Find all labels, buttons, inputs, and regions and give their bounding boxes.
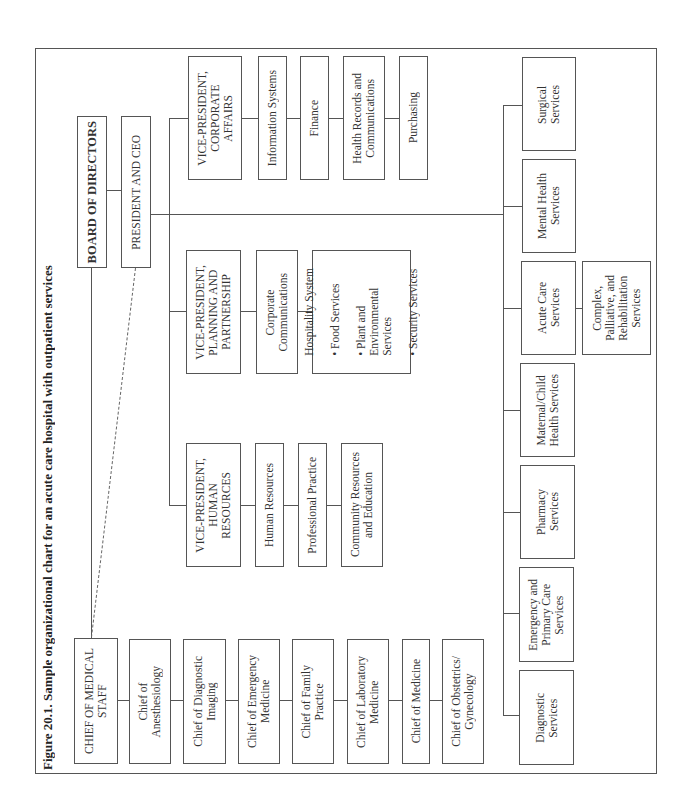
hospitality-heading: Hospitality System	[303, 268, 316, 356]
pharmacy-services-box: Pharmacy Services	[520, 465, 575, 559]
service-label: Emergency and Primary Care Services	[527, 579, 566, 651]
unit-label: Information Systems	[266, 70, 279, 166]
chief-diagnostic-imaging-box: Chief of Diagnostic Imaging	[183, 639, 226, 764]
chief-label: Chief of Family Practice	[300, 665, 326, 738]
hospitality-system-box: Hospitality System • Food Services • Pla…	[312, 250, 411, 374]
service-label: Mental Health Services	[536, 173, 562, 239]
unit-label: Health Records and Communications	[351, 73, 377, 164]
chief-label: Chief of Diagnostic Imaging	[192, 656, 218, 747]
svc-conn-acute	[503, 308, 522, 309]
hospitality-item: • Security Services	[407, 268, 420, 356]
board-ceo-connector	[107, 190, 121, 191]
chief-medical-staff-box: CHIEF OF MEDICAL STAFF	[74, 638, 118, 764]
information-systems-box: Information Systems	[258, 56, 287, 180]
chief-label: Chief of Obstetrics/ Gynecology	[450, 656, 476, 747]
chief-label: Chief of Anesthesiology	[137, 666, 163, 738]
service-label: Complex, Palliative, and Rehabilitation …	[591, 275, 643, 341]
chief-medicine-box: Chief of Medicine	[402, 639, 430, 764]
service-label: Pharmacy Services	[535, 489, 561, 535]
ceo-main-line	[151, 214, 503, 215]
service-label: Diagnostic Services	[534, 693, 560, 743]
board-medstaff-line	[91, 268, 92, 639]
chief-obstetrics-box: Chief of Obstetrics/ Gynecology	[442, 639, 484, 764]
chief-family-practice-box: Chief of Family Practice	[292, 639, 334, 764]
hospitality-item-label: Security Services	[407, 269, 419, 349]
vp-hr-connector	[169, 505, 186, 506]
svc-conn-surgical	[503, 105, 522, 106]
bullet-icon: •	[355, 352, 367, 356]
finance-box: Finance	[300, 56, 329, 180]
chief-label: Chief of Laboratory Medicine	[355, 656, 381, 748]
mental-health-services-box: Mental Health Services	[522, 159, 576, 253]
chief-label: Chief of Emergency Medicine	[246, 655, 272, 748]
bullet-icon: •	[407, 352, 419, 356]
human-resources-box: Human Resources	[255, 443, 284, 567]
professional-practice-box: Professional Practice	[298, 443, 327, 567]
unit-label: Purchasing	[407, 92, 420, 143]
chief-anesthesiology-box: Chief of Anesthesiology	[129, 639, 171, 764]
ceo-label: PRESIDENT AND CEO	[130, 135, 143, 250]
vp-ca-connector	[169, 118, 188, 119]
figure-title: Figure 20.1. Sample organizational chart…	[40, 48, 56, 770]
unit-label: Finance	[308, 100, 321, 136]
svc-conn-mental	[503, 206, 522, 207]
diagnostic-services-box: Diagnostic Services	[519, 670, 574, 765]
community-resources-box: Community Resources and Education	[341, 443, 383, 567]
vp-planning-box: VICE-PRESIDENT, PLANNING AND PARTNERSHIP	[186, 250, 241, 374]
emergency-primary-care-box: Emergency and Primary Care Services	[519, 567, 574, 662]
vp-title: VICE-PRESIDENT, HUMAN RESOURCES	[194, 458, 233, 553]
president-ceo-box: PRESIDENT AND CEO	[121, 116, 151, 268]
vp-pp-connector	[169, 311, 186, 312]
board-label: BOARD OF DIRECTORS	[86, 121, 99, 263]
complex-palliative-rehab-box: Complex, Palliative, and Rehabilitation …	[582, 261, 651, 355]
acute-care-services-box: Acute Care Services	[521, 261, 576, 355]
vp-title: VICE-PRESIDENT, PLANNING AND PARTNERSHIP	[194, 265, 233, 360]
vp-corporate-affairs-box: VICE-PRESIDENT, CORPORATE AFFAIRS	[188, 56, 242, 180]
unit-label: Community Resources and Education	[349, 452, 375, 557]
hospitality-list: Hospitality System • Food Services • Pla…	[290, 268, 433, 356]
purchasing-box: Purchasing	[399, 56, 428, 180]
service-label: Surgical Services	[536, 85, 562, 124]
surgical-services-box: Surgical Services	[522, 57, 576, 151]
unit-label: Corporate Communications	[264, 273, 290, 352]
unit-label: Human Resources	[263, 463, 276, 547]
service-label: Maternal/Child Health Services	[535, 374, 561, 447]
hospitality-item: • Plant and Environmental Services	[355, 268, 394, 356]
bullet-icon: •	[329, 352, 341, 356]
maternal-child-services-box: Maternal/Child Health Services	[520, 363, 575, 457]
service-label: Acute Care Services	[536, 282, 562, 334]
board-of-directors-box: BOARD OF DIRECTORS	[77, 116, 107, 268]
vp-title: VICE-PRESIDENT, CORPORATE AFFAIRS	[196, 71, 235, 166]
chief-label: Chief of Medicine	[410, 659, 423, 743]
unit-label: Professional Practice	[306, 457, 319, 554]
hospitality-item: • Food Services	[329, 268, 342, 356]
chief-medical-staff-label: CHIEF OF MEDICAL STAFF	[83, 648, 109, 754]
vp-human-resources-box: VICE-PRESIDENT, HUMAN RESOURCES	[186, 443, 241, 567]
health-records-box: Health Records and Communications	[343, 56, 385, 180]
chief-emergency-medicine-box: Chief of Emergency Medicine	[238, 639, 280, 764]
chief-laboratory-medicine-box: Chief of Laboratory Medicine	[347, 639, 389, 764]
hospitality-item-label: Food Services	[329, 284, 341, 349]
hospitality-item-label: Plant and Environmental Services	[355, 288, 393, 356]
